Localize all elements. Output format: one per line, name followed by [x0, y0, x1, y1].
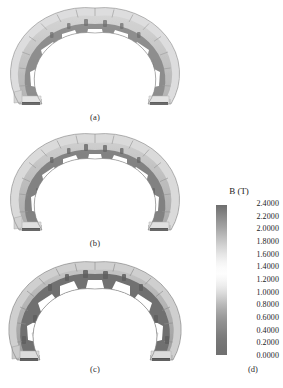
colorbar-tick: 1.0000: [232, 289, 280, 297]
colorbar-tick: 1.4000: [232, 263, 280, 271]
colorbar-tick: 0.4000: [232, 327, 280, 335]
panel-b-plot: [0, 128, 190, 236]
panel-a-plot: [0, 2, 190, 110]
panel-c: (c): [0, 256, 190, 382]
colorbar-tick: 1.6000: [232, 251, 280, 259]
panel-c-caption: (c): [0, 364, 190, 374]
panel-b-caption: (b): [0, 238, 190, 248]
colorbar-tick: 2.2000: [232, 213, 280, 221]
panel-c-plot: [0, 256, 190, 364]
panel-b: (b): [0, 128, 190, 250]
colorbar-tick: 2.0000: [232, 225, 280, 233]
colorbar-gradient: [216, 205, 227, 355]
figure-root: (a): [0, 0, 283, 388]
panel-d-caption: (d): [228, 364, 278, 374]
colorbar-tick: 1.8000: [232, 238, 280, 246]
colorbar-tick: 0.0000: [232, 352, 280, 360]
panel-a-caption: (a): [0, 112, 190, 122]
colorbar-tick: 0.6000: [232, 314, 280, 322]
colorbar-tick-list: 2.4000 2.2000 2.0000 1.8000 1.6000 1.400…: [232, 200, 280, 360]
colorbar-tick: 2.4000: [232, 200, 280, 208]
colorbar-tick: 0.8000: [232, 301, 280, 309]
colorbar-legend: B (T) 2.4000 2.2000 2.0000 1.8000 1.6000…: [198, 186, 283, 382]
colorbar-title: B (T): [204, 186, 274, 196]
colorbar-tick: 1.2000: [232, 276, 280, 284]
colorbar-tick: 0.2000: [232, 339, 280, 347]
panel-a: (a): [0, 2, 190, 124]
